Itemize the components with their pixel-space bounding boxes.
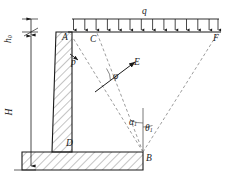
surcharge-load-q (72, 19, 219, 30)
dimension-H (14, 36, 36, 170)
height-h-glyph: h (3, 38, 13, 43)
label-point-B: B (146, 154, 152, 164)
label-point-C: C (90, 35, 96, 45)
failure-plane-BA (70, 33, 143, 152)
label-pressure-p: p (71, 58, 76, 68)
angle-theta-subscript: 1 (150, 127, 153, 133)
label-point-D: D (66, 139, 73, 149)
failure-plane-BF (143, 33, 218, 152)
wall-stem (52, 32, 72, 152)
wall-footing (22, 152, 143, 170)
label-point-A: A (62, 33, 68, 43)
label-angle-alpha1: α1 (129, 118, 137, 128)
label-height-h0: h0 (4, 35, 14, 43)
angle-alpha-subscript: 1 (134, 121, 137, 127)
retaining-wall-figure: A C F E D B q p φ α1 θ1 H h0 (0, 0, 233, 181)
label-point-F: F (213, 34, 219, 44)
angle-arc-phi (107, 69, 111, 81)
failure-plane-BC (97, 33, 143, 152)
figure-drawing (0, 0, 233, 181)
label-angle-theta1: θ1 (145, 124, 153, 134)
label-height-H: H (5, 109, 15, 116)
surcharge-arrows (74, 19, 219, 30)
label-point-E: E (134, 58, 140, 68)
dimension-h0 (22, 19, 38, 36)
height-h-subscript: 0 (7, 35, 13, 38)
label-load-q: q (142, 7, 147, 17)
failure-planes (70, 33, 218, 152)
label-angle-phi: φ (113, 72, 118, 82)
